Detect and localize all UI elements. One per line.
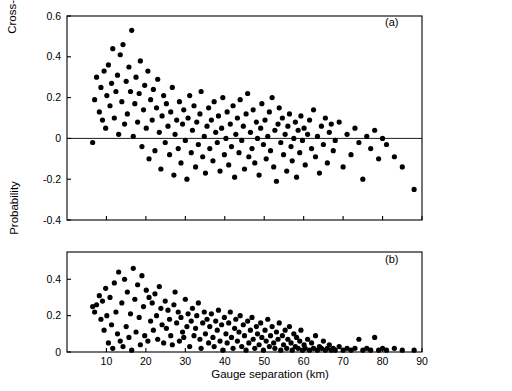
x-tick-label: 60 xyxy=(298,355,310,367)
data-point xyxy=(287,111,292,116)
data-point xyxy=(202,134,207,139)
data-point xyxy=(356,140,361,145)
data-point xyxy=(152,148,157,153)
data-point xyxy=(223,331,228,336)
data-point xyxy=(190,128,195,133)
data-point xyxy=(232,175,237,180)
data-point xyxy=(178,160,183,165)
x-tick-label: 40 xyxy=(219,355,231,367)
data-point xyxy=(215,140,220,145)
data-point xyxy=(262,328,267,333)
x-tick-label: 30 xyxy=(179,355,191,367)
data-point xyxy=(220,95,225,100)
data-point xyxy=(112,115,117,120)
data-point xyxy=(185,311,190,316)
data-point xyxy=(112,280,117,285)
data-point xyxy=(97,109,102,114)
data-point xyxy=(232,326,237,331)
data-point xyxy=(200,320,205,325)
data-point xyxy=(294,175,299,180)
data-point xyxy=(226,320,231,325)
data-point xyxy=(230,103,235,108)
data-point xyxy=(142,83,147,88)
data-point xyxy=(100,298,105,303)
data-point xyxy=(238,97,243,102)
data-point xyxy=(177,338,182,343)
data-point xyxy=(233,132,238,137)
data-point xyxy=(309,340,314,345)
data-point xyxy=(144,126,149,131)
data-point xyxy=(151,87,156,92)
data-point xyxy=(236,329,241,334)
data-point xyxy=(267,109,272,114)
data-point xyxy=(278,140,283,145)
x-tick-label: 20 xyxy=(140,355,152,367)
data-point xyxy=(118,338,123,343)
data-point xyxy=(154,105,159,110)
data-point xyxy=(103,126,108,131)
panel-a-label: (a) xyxy=(385,16,398,28)
data-point xyxy=(151,328,156,333)
data-point xyxy=(356,337,361,342)
data-point xyxy=(167,152,172,157)
data-point xyxy=(251,107,256,112)
data-point xyxy=(197,337,202,342)
data-point xyxy=(171,173,176,178)
data-point xyxy=(319,124,324,129)
data-point xyxy=(104,93,109,98)
data-point xyxy=(129,28,134,33)
data-point xyxy=(277,320,282,325)
data-point xyxy=(139,273,144,278)
data-point xyxy=(293,119,298,124)
data-point xyxy=(181,335,186,340)
data-point xyxy=(157,130,162,135)
data-point xyxy=(176,309,181,314)
data-point xyxy=(290,158,295,163)
data-point xyxy=(183,297,188,302)
data-point xyxy=(261,142,266,147)
data-point xyxy=(165,124,170,129)
data-point xyxy=(137,315,142,320)
data-point xyxy=(238,313,243,318)
data-point xyxy=(300,138,305,143)
data-point xyxy=(230,346,235,351)
data-point xyxy=(249,315,254,320)
data-point xyxy=(170,85,175,90)
data-point xyxy=(327,342,332,347)
data-point xyxy=(138,58,143,63)
data-point xyxy=(309,146,314,151)
data-point xyxy=(301,126,306,131)
scatter-plot-svg: -0.4-0.200.20.40.600.20.4102030405060708… xyxy=(0,0,512,391)
data-point xyxy=(133,329,138,334)
data-point xyxy=(109,81,114,86)
data-point xyxy=(177,99,182,104)
data-point xyxy=(122,277,127,282)
data-point xyxy=(274,329,279,334)
data-point xyxy=(126,64,131,69)
data-point xyxy=(284,168,289,173)
data-point xyxy=(255,136,260,141)
data-point xyxy=(248,328,253,333)
data-point xyxy=(115,331,120,336)
data-point xyxy=(217,168,222,173)
data-point xyxy=(280,333,285,338)
y-tick-label: -0.4 xyxy=(43,214,61,226)
data-point xyxy=(255,331,260,336)
data-point xyxy=(184,177,189,182)
data-point xyxy=(219,322,224,327)
data-point xyxy=(178,315,183,320)
data-point xyxy=(164,101,169,106)
data-point xyxy=(265,317,270,322)
data-point xyxy=(184,324,189,329)
data-point xyxy=(148,318,153,323)
data-point xyxy=(161,340,166,345)
data-point xyxy=(265,134,270,139)
data-point xyxy=(241,322,246,327)
data-point xyxy=(348,152,353,157)
data-point xyxy=(157,284,162,289)
data-point xyxy=(229,335,234,340)
data-point xyxy=(146,156,151,161)
data-point xyxy=(323,115,328,120)
data-point xyxy=(172,289,177,294)
data-point xyxy=(327,130,332,135)
